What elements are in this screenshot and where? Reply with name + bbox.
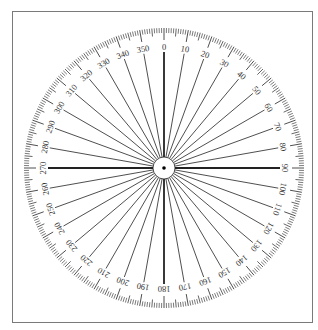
degree-tick xyxy=(43,98,53,104)
degree-tick xyxy=(203,34,204,39)
radial-line-40 xyxy=(171,79,238,159)
degree-tick xyxy=(264,74,268,77)
degree-tick xyxy=(229,286,231,290)
radial-line-80 xyxy=(175,148,278,166)
degree-tick xyxy=(98,287,100,291)
degree-tick xyxy=(27,141,32,142)
degree-tick xyxy=(28,137,33,138)
degree-tick xyxy=(137,31,138,36)
degree-tick xyxy=(192,300,193,305)
degree-tick xyxy=(206,35,208,40)
degree-tick xyxy=(256,267,259,271)
degree-tick xyxy=(55,253,59,256)
degree-tick xyxy=(289,219,294,221)
degree-tick xyxy=(293,207,298,208)
degree-tick xyxy=(107,291,109,296)
degree-tick xyxy=(26,144,38,146)
radial-line-100 xyxy=(175,170,278,188)
degree-tick xyxy=(245,56,248,60)
degree-tick xyxy=(70,268,73,272)
degree-tick xyxy=(194,32,195,37)
degree-tick xyxy=(264,258,268,261)
degree-label-270: 270 xyxy=(38,162,48,175)
degree-tick xyxy=(278,240,282,243)
degree-tick xyxy=(35,221,40,223)
degree-tick xyxy=(290,190,302,192)
degree-tick xyxy=(51,86,55,89)
degree-tick xyxy=(52,84,56,87)
degree-tick xyxy=(76,59,79,63)
degree-tick xyxy=(43,232,53,238)
degree-tick xyxy=(290,216,295,218)
radial-line-350 xyxy=(144,54,162,157)
degree-tick xyxy=(283,231,287,233)
degree-tick xyxy=(70,64,73,68)
degree-label-170: 170 xyxy=(178,281,192,293)
degree-tick xyxy=(176,299,177,307)
degree-tick xyxy=(298,151,303,152)
degree-tick xyxy=(225,43,227,47)
degree-tick xyxy=(276,243,280,246)
degree-label-340: 340 xyxy=(115,47,130,61)
degree-tick xyxy=(128,296,130,304)
degree-tick xyxy=(78,274,81,278)
degree-tick xyxy=(58,76,62,79)
degree-tick xyxy=(48,243,52,246)
degree-tick xyxy=(229,46,231,50)
degree-tick xyxy=(190,301,191,306)
degree-tick xyxy=(290,144,302,146)
degree-tick xyxy=(228,47,234,57)
degree-tick xyxy=(25,184,30,185)
degree-tick xyxy=(145,29,146,34)
degree-tick xyxy=(247,274,250,278)
degree-tick xyxy=(45,240,49,243)
degree-tick xyxy=(183,29,184,34)
degree-tick xyxy=(178,302,179,307)
degree-tick xyxy=(133,300,134,305)
degree-tick xyxy=(28,198,33,199)
degree-tick xyxy=(289,116,294,118)
protractor-rose: 0102030405060708090100110120130140150160… xyxy=(0,0,318,330)
degree-tick xyxy=(234,284,237,288)
degree-tick xyxy=(55,80,59,83)
degree-tick xyxy=(296,196,301,197)
degree-tick xyxy=(212,294,214,299)
degree-tick xyxy=(25,156,33,157)
degree-tick xyxy=(82,55,85,59)
degree-tick xyxy=(287,223,292,225)
degree-tick xyxy=(80,56,83,60)
degree-tick xyxy=(130,32,131,37)
degree-tick xyxy=(142,30,143,35)
degree-label-80: 80 xyxy=(277,142,288,152)
degree-tick xyxy=(25,182,30,183)
degree-tick xyxy=(277,242,281,245)
degree-tick xyxy=(294,205,299,206)
radial-line-320 xyxy=(89,79,156,159)
degree-tick xyxy=(192,31,193,36)
degree-tick xyxy=(26,190,38,192)
degree-tick xyxy=(121,35,123,40)
degree-label-20: 20 xyxy=(200,48,211,60)
degree-tick xyxy=(297,141,302,142)
degree-tick xyxy=(60,258,64,261)
degree-tick xyxy=(284,212,295,216)
degree-tick xyxy=(258,67,261,71)
degree-tick xyxy=(32,120,43,124)
degree-tick xyxy=(140,294,142,306)
degree-tick xyxy=(34,116,39,118)
degree-label-110: 110 xyxy=(271,202,285,217)
degree-tick xyxy=(33,118,38,120)
degree-tick xyxy=(67,265,70,269)
degree-tick xyxy=(298,187,303,188)
degree-tick xyxy=(284,104,288,106)
degree-tick xyxy=(149,29,150,34)
degree-tick xyxy=(35,113,40,115)
degree-tick xyxy=(261,262,265,265)
degree-tick xyxy=(292,125,297,127)
degree-tick xyxy=(292,122,297,124)
degree-tick xyxy=(280,238,284,241)
degree-tick xyxy=(282,100,286,102)
degree-tick xyxy=(38,227,42,229)
degree-tick xyxy=(295,180,303,181)
degree-tick xyxy=(109,39,111,44)
